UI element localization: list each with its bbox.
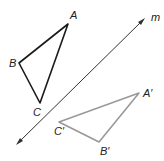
vertex-label-c: C: [33, 106, 41, 118]
triangle-a-prime-b-prime-c-prime: [59, 93, 139, 142]
vertex-label-a: A: [69, 9, 77, 21]
reflection-diagram: m A B C A′ B′ C′: [0, 0, 164, 161]
triangle-abc: [19, 24, 68, 103]
vertex-label-b-prime: B′: [100, 145, 110, 157]
vertex-label-b: B: [9, 57, 16, 69]
line-m: [16, 18, 145, 145]
vertex-label-c-prime: C′: [54, 125, 65, 137]
vertex-label-a-prime: A′: [142, 87, 153, 99]
line-label: m: [151, 11, 160, 23]
